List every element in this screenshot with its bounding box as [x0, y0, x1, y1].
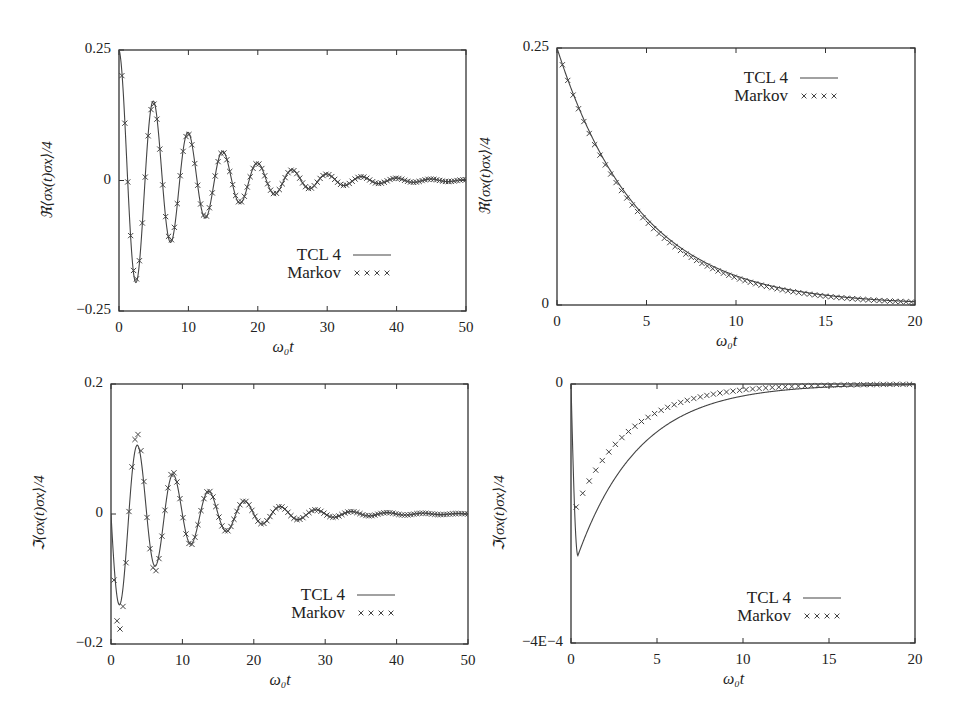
legend-line-sample [357, 589, 397, 601]
y-tick-label: 0.2 [33, 374, 103, 391]
legend-entry-markov: Markov [703, 606, 843, 626]
legend-cross-sample [353, 267, 393, 279]
x-tick-label: 50 [446, 319, 486, 336]
x-tick-label: 30 [305, 652, 345, 669]
x-tick-label: 0 [91, 652, 131, 669]
x-axis-label: ω₀t [716, 332, 737, 350]
x-axis-label: ω₀t [273, 338, 294, 356]
y-tick-label: −0.25 [41, 301, 111, 318]
x-tick-label: 0 [99, 319, 139, 336]
y-axis-label: ℑ⟨σx(t)σx⟩/4 [490, 433, 508, 593]
x-tick-label: 10 [168, 319, 208, 336]
x-tick-label: 5 [627, 313, 667, 330]
series-markov-markers [574, 382, 913, 510]
series-tcl4-line [111, 445, 468, 605]
y-tick-label: 0.25 [479, 38, 549, 55]
x-tick-label: 15 [809, 651, 849, 668]
legend-line-sample [800, 72, 840, 84]
legend-cross-sample [357, 607, 397, 619]
x-tick-label: 20 [895, 313, 935, 330]
y-tick-label: 0 [479, 295, 549, 312]
y-tick-label: −0.2 [33, 634, 103, 651]
legend-label: TCL 4 [747, 588, 791, 608]
x-tick-label: 20 [234, 652, 274, 669]
x-tick-label: 40 [377, 652, 417, 669]
x-tick-label: 20 [895, 651, 935, 668]
x-tick-label: 15 [806, 313, 846, 330]
x-tick-label: 5 [637, 651, 677, 668]
legend-entry-tcl4: TCL 4 [257, 585, 397, 605]
legend-label: TCL 4 [297, 245, 341, 265]
y-axis-label: ℜ⟨σx(t)σx⟩/4 [38, 100, 56, 260]
x-tick-label: 10 [723, 651, 763, 668]
y-tick-label: −4E−4 [493, 633, 563, 650]
x-tick-label: 50 [448, 652, 488, 669]
y-axis-label: ℑ⟨σx(t)σx⟩/4 [30, 433, 48, 593]
legend-label: TCL 4 [744, 68, 788, 88]
x-tick-label: 10 [716, 313, 756, 330]
x-tick-label: 0 [551, 651, 591, 668]
y-axis-label: ℜ⟨σx(t)σx⟩/4 [476, 96, 494, 256]
legend-label: Markov [734, 86, 788, 106]
legend-entry-markov: Markov [253, 263, 393, 283]
legend-entry-tcl4: TCL 4 [703, 588, 843, 608]
legend-label: TCL 4 [301, 585, 345, 605]
y-tick-label: 0.25 [41, 40, 111, 57]
x-axis-label: ω₀t [723, 670, 744, 688]
x-tick-label: 40 [377, 319, 417, 336]
legend-line-sample [353, 249, 393, 261]
x-axis-label: ω₀t [270, 671, 291, 689]
legend-entry-tcl4: TCL 4 [253, 245, 393, 265]
y-tick-label: 0 [493, 374, 563, 391]
legend-entry-tcl4: TCL 4 [700, 68, 840, 88]
legend-cross-sample [800, 90, 840, 102]
legend-cross-sample [803, 610, 843, 622]
legend-entry-markov: Markov [700, 86, 840, 106]
legend-label: Markov [287, 263, 341, 283]
legend-label: Markov [737, 606, 791, 626]
legend-entry-markov: Markov [257, 603, 397, 623]
x-tick-label: 30 [307, 319, 347, 336]
x-tick-label: 10 [162, 652, 202, 669]
x-tick-label: 0 [537, 313, 577, 330]
legend-label: Markov [291, 603, 345, 623]
series-tcl4-line [571, 384, 915, 556]
legend-line-sample [803, 592, 843, 604]
x-tick-label: 20 [238, 319, 278, 336]
